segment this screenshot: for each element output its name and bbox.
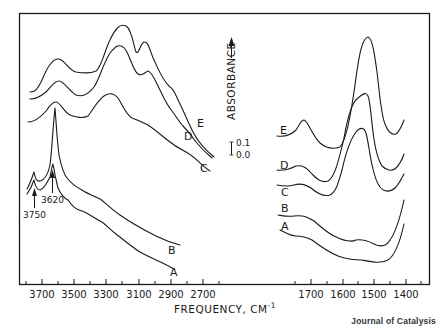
tick-label: 1700 bbox=[298, 289, 323, 300]
curve-label-E: E bbox=[197, 117, 204, 130]
absorbance-scale-bar: 0.1 0.0 bbox=[230, 138, 251, 160]
curve-label-D: D bbox=[280, 159, 288, 172]
annotation-3750: 3750 bbox=[23, 210, 46, 220]
curve-E-right bbox=[277, 37, 404, 148]
curve-label-A: A bbox=[170, 266, 178, 279]
curve-label-B: B bbox=[168, 244, 176, 257]
arrow-up-icon bbox=[229, 37, 235, 46]
left-curve-labels: E D C B A bbox=[168, 117, 208, 279]
tick-label: 3500 bbox=[61, 289, 86, 300]
scale-bottom-label: 0.0 bbox=[236, 150, 251, 160]
tick-label: 3100 bbox=[126, 289, 151, 300]
curve-label-A: A bbox=[281, 220, 289, 233]
tick-label: 1600 bbox=[330, 289, 355, 300]
tick-label: 2700 bbox=[190, 289, 215, 300]
right-panel-curves bbox=[277, 37, 404, 262]
tick-label: 2900 bbox=[158, 289, 183, 300]
tick-label: 1400 bbox=[393, 289, 418, 300]
curve-D-right bbox=[277, 94, 404, 182]
left-panel-curves bbox=[27, 25, 214, 269]
x-tick-labels-right: 1700 1600 1500 1400 bbox=[298, 289, 418, 300]
tick-label: 3700 bbox=[29, 289, 54, 300]
tick-label: 3300 bbox=[93, 289, 118, 300]
x-axis-title: FREQUENCY, CM-1 bbox=[174, 301, 276, 315]
curve-A-right bbox=[280, 224, 404, 262]
journal-credit: Journal of Catalysis bbox=[351, 316, 436, 326]
annotation-3620: 3620 bbox=[41, 195, 64, 205]
curve-label-E: E bbox=[280, 124, 287, 137]
curve-C-right bbox=[277, 128, 404, 195]
curve-label-C: C bbox=[281, 186, 289, 199]
curve-label-B: B bbox=[281, 202, 289, 215]
x-tick-labels-left: 3700 3500 3300 3100 2900 2700 bbox=[29, 289, 215, 300]
y-axis-title-group: ABSORBANCE bbox=[225, 37, 237, 120]
curve-C-left bbox=[28, 94, 210, 171]
x-axis-ticks-left bbox=[26, 279, 219, 284]
scale-top-label: 0.1 bbox=[236, 138, 250, 148]
curve-B-right bbox=[278, 200, 404, 246]
arrow-up-icon bbox=[32, 188, 37, 196]
curve-label-C: C bbox=[200, 162, 208, 175]
x-axis-ticks-right bbox=[295, 279, 421, 284]
curve-label-D: D bbox=[184, 130, 192, 143]
ir-spectra-figure: 3700 3500 3300 3100 2900 2700 1700 1600 … bbox=[0, 0, 446, 331]
curve-A-left bbox=[27, 164, 174, 269]
tick-label: 1500 bbox=[361, 289, 386, 300]
peak-annotations: 3750 3620 bbox=[23, 170, 64, 220]
